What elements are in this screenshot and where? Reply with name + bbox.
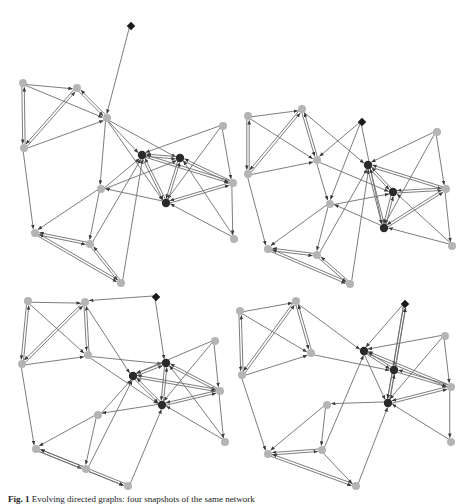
directed-edge [101, 161, 176, 190]
directed-edge [155, 297, 164, 359]
directed-edge [320, 121, 362, 156]
diamond-node [127, 22, 135, 30]
directed-edge [137, 340, 215, 373]
panel-top-left [19, 22, 238, 287]
graph-node [318, 446, 326, 454]
directed-edge [23, 306, 29, 365]
graph-node [219, 122, 227, 130]
directed-edge [298, 305, 312, 353]
hub-node [162, 199, 170, 207]
directed-edge [232, 183, 233, 235]
graph-node [448, 242, 456, 250]
graph-node [124, 482, 132, 490]
graph-node [73, 84, 81, 92]
directed-edge [162, 393, 216, 406]
directed-edge [372, 131, 437, 162]
directed-edge [301, 109, 315, 156]
graph-node [221, 438, 229, 446]
directed-edge [87, 381, 132, 470]
graph-node [447, 383, 455, 391]
hub-node [380, 224, 388, 232]
directed-edge [330, 194, 389, 205]
directed-edge [170, 182, 233, 201]
directed-edge [100, 118, 106, 185]
hub-node [158, 401, 166, 409]
graph-node [86, 240, 94, 248]
hub-node [162, 359, 170, 367]
directed-edge [316, 256, 346, 282]
directed-edge [317, 161, 389, 191]
directed-edge [241, 375, 266, 450]
directed-edge [247, 174, 266, 245]
directed-edge [39, 234, 121, 282]
directed-edge [271, 203, 329, 245]
directed-edge [21, 364, 34, 445]
graph-node [18, 360, 26, 368]
edges [247, 108, 453, 284]
directed-edge [38, 188, 100, 230]
graph-node [97, 185, 105, 193]
graph-node [352, 482, 360, 490]
directed-edge [185, 159, 234, 182]
panel-bottom-right [236, 297, 455, 490]
graph-node [244, 112, 252, 120]
directed-edge [102, 404, 162, 413]
graph-node [24, 297, 32, 305]
graph-node [313, 156, 321, 164]
hub-node [390, 366, 398, 374]
directed-edge [240, 303, 292, 312]
directed-edge [392, 404, 451, 441]
diamond-node [358, 118, 366, 126]
directed-edge [331, 402, 388, 404]
graph-node [81, 298, 89, 306]
hub-node [360, 347, 368, 355]
directed-edge [86, 470, 124, 485]
directed-edge [146, 125, 223, 152]
directed-edge [24, 121, 103, 149]
graph-node [20, 144, 28, 152]
directed-edge [34, 234, 116, 282]
directed-edge [444, 336, 449, 383]
directed-edge [102, 159, 140, 190]
directed-edge [137, 362, 166, 373]
graph-node [82, 465, 90, 473]
edges [239, 300, 452, 486]
graph-node [238, 371, 246, 379]
directed-edge [22, 357, 84, 365]
nodes [244, 105, 456, 288]
directed-edge [171, 204, 235, 238]
directed-edge [316, 160, 328, 200]
directed-edge [271, 404, 327, 450]
directed-edge [106, 119, 138, 153]
graph-node [230, 235, 238, 243]
directed-edge [243, 305, 294, 375]
directed-edge [165, 364, 215, 390]
directed-edge [445, 189, 451, 242]
directed-edge [179, 159, 228, 182]
graph-node [447, 438, 455, 446]
directed-edge [89, 245, 117, 280]
directed-edge [166, 406, 225, 441]
directed-edge [222, 126, 231, 179]
hub-node [176, 154, 184, 162]
hub-node [138, 151, 146, 159]
directed-edge [89, 296, 156, 301]
directed-edge [351, 170, 368, 285]
directed-edge [335, 205, 385, 227]
directed-edge [304, 113, 318, 160]
directed-edge [86, 306, 89, 355]
directed-edge [81, 90, 108, 117]
diamond-node [152, 293, 160, 301]
directed-edge [84, 303, 130, 373]
directed-edge [147, 155, 234, 182]
directed-edge [436, 132, 444, 185]
hub-node [129, 372, 137, 380]
directed-edge [244, 300, 295, 370]
directed-edge [273, 454, 357, 484]
directed-edge [385, 192, 443, 229]
directed-edge [368, 166, 442, 189]
directed-edge [399, 370, 452, 386]
directed-edge [239, 312, 306, 352]
directed-edge [373, 165, 447, 188]
panel-top-right [244, 105, 456, 288]
